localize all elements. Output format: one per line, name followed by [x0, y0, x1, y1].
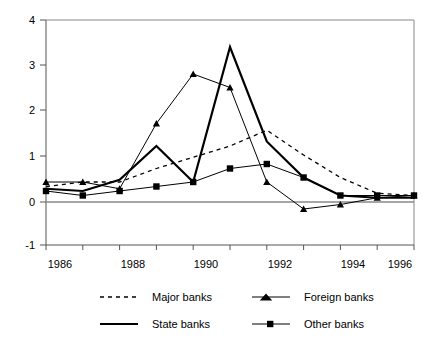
x-tick-label: 1988: [121, 258, 145, 270]
square-marker-icon: [80, 192, 86, 198]
square-marker-icon: [267, 321, 273, 327]
legend-label: Major banks: [152, 291, 212, 303]
y-tick-label: 4: [29, 14, 35, 26]
y-tick-label: -1: [25, 239, 35, 251]
y-tick-label: 2: [29, 104, 35, 116]
square-marker-icon: [264, 161, 270, 167]
x-tick-label: 1994: [341, 258, 365, 270]
chart-figure: 4 3 2 1 0 -1 1986 1988 1990 1992 1994 19…: [0, 0, 431, 345]
x-tick-label: 1990: [194, 258, 218, 270]
square-marker-icon: [153, 183, 159, 189]
y-tick-label: 1: [29, 150, 35, 162]
legend-label: State banks: [152, 318, 211, 330]
y-tick-label: 0: [29, 196, 35, 208]
square-marker-icon: [227, 165, 233, 171]
legend-label: Foreign banks: [304, 291, 374, 303]
x-tick-label: 1996: [388, 258, 412, 270]
multi-series-line-chart: 4 3 2 1 0 -1 1986 1988 1990 1992 1994 19…: [0, 0, 431, 345]
x-tick-label: 1986: [48, 258, 72, 270]
y-tick-label: 3: [29, 59, 35, 71]
x-tick-label: 1992: [268, 258, 292, 270]
legend-label: Other banks: [304, 318, 364, 330]
